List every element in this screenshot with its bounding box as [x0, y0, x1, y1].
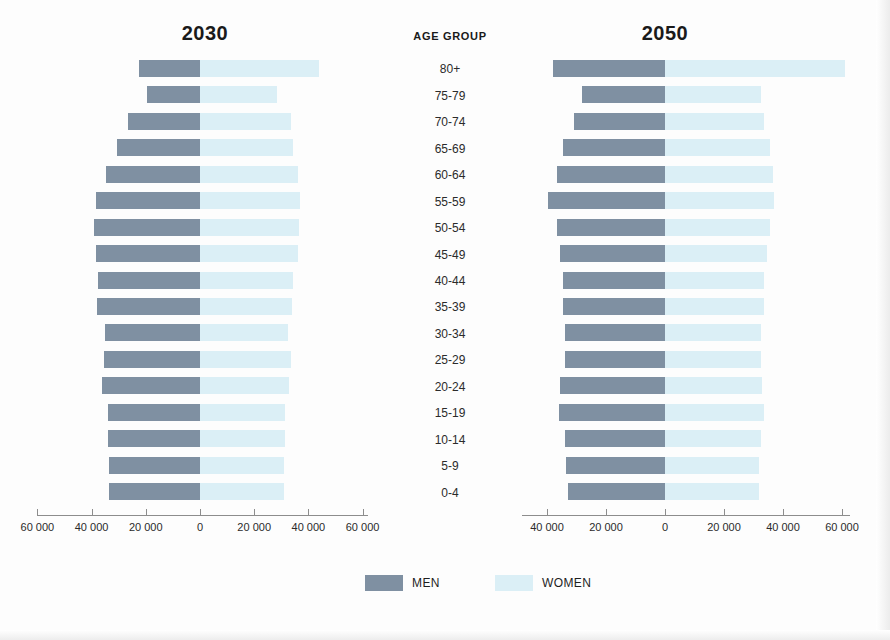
- pyramid-row: [512, 430, 860, 447]
- bar-women: [665, 324, 761, 341]
- bar-women: [200, 351, 291, 368]
- axis-tick-label: 60 000: [7, 521, 67, 533]
- age-group-label-column: 80+75-7970-7465-6960-6455-5950-5445-4940…: [390, 55, 510, 505]
- bar-men: [568, 483, 665, 500]
- axis-tick-label: 40 000: [753, 521, 813, 533]
- pyramid-row: [28, 351, 378, 368]
- pyramid-row: [28, 60, 378, 77]
- pyramid-row: [28, 404, 378, 421]
- age-group-label: 45-49: [390, 249, 510, 261]
- pyramid-row: [512, 219, 860, 236]
- axis-tick-label: 40 000: [517, 521, 577, 533]
- pyramid-row: [512, 166, 860, 183]
- axis-tick: [200, 509, 201, 516]
- bar-women: [665, 430, 761, 447]
- bar-men: [548, 192, 665, 209]
- x-axis-2050: 40 00020 000020 00040 00060 000: [512, 505, 860, 545]
- chart-title-2030: 2030: [140, 22, 270, 45]
- bar-men: [574, 113, 665, 130]
- age-group-header: AGE GROUP: [390, 30, 510, 42]
- age-group-label: 60-64: [390, 169, 510, 181]
- pyramid-row: [28, 483, 378, 500]
- pyramid-row: [28, 166, 378, 183]
- age-group-label: 75-79: [390, 90, 510, 102]
- axis-tick-label: 60 000: [333, 521, 393, 533]
- bar-men: [582, 86, 665, 103]
- bar-men: [106, 166, 199, 183]
- bar-men: [563, 272, 665, 289]
- bar-women: [665, 377, 762, 394]
- age-group-label: 15-19: [390, 407, 510, 419]
- bar-women: [665, 351, 761, 368]
- bar-women: [665, 298, 764, 315]
- age-group-label: 10-14: [390, 434, 510, 446]
- age-group-label: 70-74: [390, 116, 510, 128]
- bar-women: [200, 245, 298, 262]
- bar-men: [565, 324, 665, 341]
- bar-women: [665, 60, 845, 77]
- bar-men: [557, 166, 665, 183]
- pyramid-row: [28, 113, 378, 130]
- bar-women: [200, 430, 285, 447]
- bar-men: [96, 245, 200, 262]
- axis-line: [522, 515, 850, 516]
- axis-tick: [606, 509, 607, 516]
- bar-women: [665, 404, 764, 421]
- bar-men: [563, 298, 665, 315]
- bar-men: [565, 351, 665, 368]
- legend-item-women: WOMEN: [495, 575, 591, 591]
- pyramid-row: [28, 139, 378, 156]
- bar-men: [109, 457, 200, 474]
- bar-women: [665, 192, 774, 209]
- bar-men: [565, 430, 665, 447]
- pyramid-row: [512, 113, 860, 130]
- bar-men: [94, 219, 200, 236]
- bar-women: [200, 192, 300, 209]
- bar-men: [128, 113, 200, 130]
- bar-women: [200, 166, 298, 183]
- bar-women: [200, 324, 288, 341]
- bar-women: [200, 60, 319, 77]
- pyramid-row: [512, 483, 860, 500]
- bar-men: [108, 430, 200, 447]
- age-group-label: 55-59: [390, 196, 510, 208]
- bar-women: [200, 483, 284, 500]
- legend-label-women: WOMEN: [542, 576, 591, 590]
- axis-tick: [92, 509, 93, 516]
- bar-men: [557, 219, 665, 236]
- age-group-label: 80+: [390, 63, 510, 75]
- bar-women: [200, 272, 293, 289]
- axis-tick-label: 40 000: [278, 521, 338, 533]
- age-group-label: 20-24: [390, 381, 510, 393]
- chart-title-2050: 2050: [600, 22, 730, 45]
- axis-tick: [254, 509, 255, 516]
- bar-men: [96, 192, 200, 209]
- axis-tick: [842, 509, 843, 516]
- age-group-label: 65-69: [390, 143, 510, 155]
- pyramid-row: [28, 272, 378, 289]
- axis-tick: [724, 509, 725, 516]
- age-group-label: 35-39: [390, 301, 510, 313]
- pyramid-row: [28, 192, 378, 209]
- axis-tick: [547, 509, 548, 516]
- axis-tick-label: 40 000: [62, 521, 122, 533]
- legend-label-men: MEN: [412, 576, 440, 590]
- axis-tick-label: 60 000: [812, 521, 872, 533]
- bar-women: [665, 272, 764, 289]
- bar-men: [117, 139, 200, 156]
- bar-rows-2030: [28, 55, 378, 505]
- bar-men: [560, 377, 665, 394]
- age-group-label: 25-29: [390, 354, 510, 366]
- bar-men: [105, 324, 200, 341]
- pyramid-row: [28, 298, 378, 315]
- axis-tick: [363, 509, 364, 516]
- bar-men: [566, 457, 665, 474]
- pyramid-row: [512, 324, 860, 341]
- legend-swatch-men: [365, 575, 403, 591]
- bar-women: [665, 113, 764, 130]
- pyramid-row: [512, 139, 860, 156]
- bar-men: [102, 377, 200, 394]
- age-group-label: 40-44: [390, 275, 510, 287]
- age-group-label: 30-34: [390, 328, 510, 340]
- pyramid-row: [512, 245, 860, 262]
